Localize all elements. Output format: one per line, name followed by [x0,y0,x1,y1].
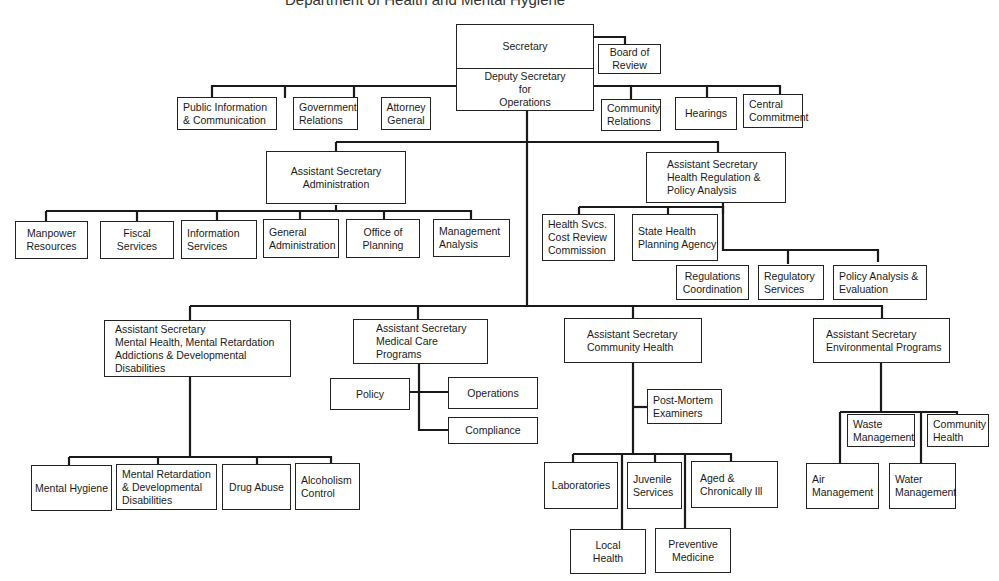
label: Management [812,486,873,499]
label: Policy [356,388,384,401]
hearings-box: Hearings [675,97,737,130]
label: Post-Mortem [653,394,713,407]
operations-box: Operations [448,377,538,409]
label: Drug Abuse [229,481,284,494]
label: Information [187,227,240,240]
label: Services [764,283,804,296]
label: Analysis [439,238,478,251]
label: Environmental Programs [826,341,942,354]
label: Cost Review [548,231,607,244]
mental-retardation-box: Mental Retardation & Developmental Disab… [116,464,217,510]
asst-sec-community-health-box: Assistant Secretary Community Health [564,318,702,363]
general-administration-box: General Administration [263,219,339,258]
label: Administration [303,178,370,191]
org-chart: Secretary Deputy Secretary for Operation… [0,0,999,581]
label: Mental Health, Mental Retardation [115,336,274,349]
post-mortem-examiners-box: Post-Mortem Examiners [647,389,722,424]
government-relations-box: Government Relations [293,97,358,130]
water-management-box: Water Management [889,463,956,509]
label: Management [895,486,956,499]
label: Public Information [183,101,267,114]
label: Commitment [749,111,809,124]
label: Office of [364,226,403,239]
label: Aged & [700,472,734,485]
fiscal-services-box: Fiscal Services [100,221,174,259]
label: Operations [499,96,550,109]
asst-sec-environmental-box: Assistant Secretary Environmental Progra… [813,318,950,363]
label: Fiscal [123,227,150,240]
label: Health Regulation & [667,171,760,184]
preventive-medicine-box: Preventive Medicine [655,528,731,573]
label: Government [299,101,357,114]
aged-chronically-ill-box: Aged & Chronically Ill [691,461,778,508]
label: Relations [299,114,343,127]
label: Local [595,539,620,552]
public-information-box: Public Information & Communication [177,97,277,130]
label: General [387,114,424,127]
label: Disabilities [122,494,172,507]
manpower-resources-box: Manpower Resources [15,221,88,259]
label: Management [439,225,500,238]
label: Water [895,473,923,486]
label: Community Health [587,341,673,354]
drug-abuse-box: Drug Abuse [222,464,291,510]
label: Policy Analysis & [839,270,918,283]
asst-sec-health-regulation-box: Assistant Secretary Health Regulation & … [646,152,786,203]
label: Central [749,98,783,111]
label: Deputy Secretary [484,70,565,83]
label: Juvenile [633,473,672,486]
label: Mental Hygiene [35,482,108,495]
label: Board of [610,46,650,59]
label: Secretary [503,40,548,53]
label: Review [612,59,646,72]
community-relations-box: Community Relations [601,99,661,131]
deputy-secretary-box: Deputy Secretary for Operations [456,68,594,111]
secretary-box: Secretary [456,24,594,69]
waste-management-box: Waste Management [847,414,915,447]
label: Hearings [685,107,727,120]
information-services-box: Information Services [181,220,257,259]
air-management-box: Air Management [806,463,879,509]
health-svcs-cost-review-box: Health Svcs. Cost Review Commission [542,214,615,261]
label: Examiners [653,407,703,420]
label: Assistant Secretary [376,322,466,335]
compliance-box: Compliance [448,417,538,444]
local-health-box: Local Health [570,529,646,574]
label: Chronically Ill [700,485,762,498]
regulatory-services-box: Regulatory Services [758,265,824,300]
label: State Health [638,225,696,238]
community-health-env-box: Community Health [927,414,989,447]
label: Coordination [683,283,743,296]
label: Addictions & Developmental [115,349,246,362]
label: Regulatory [764,270,815,283]
label: & Communication [183,114,266,127]
central-commitment-box: Central Commitment [743,94,803,128]
state-health-planning-box: State Health Planning Agency [632,214,718,261]
laboratories-box: Laboratories [544,462,618,509]
label: Policy Analysis [667,184,736,197]
asst-sec-mental-health-box: Assistant Secretary Mental Health, Menta… [104,320,291,377]
label: Health [593,552,623,565]
label: Assistant Secretary [587,328,677,341]
juvenile-services-box: Juvenile Services [627,462,682,509]
label: Community [933,418,986,431]
label: Operations [467,387,518,400]
label: for [519,83,531,96]
label: Management [853,431,914,444]
label: Programs [376,348,422,361]
office-of-planning-box: Office of Planning [346,219,420,258]
asst-sec-administration-box: Assistant Secretary Administration [266,151,406,204]
label: Medicine [672,551,714,564]
label: Assistant Secretary [826,328,916,341]
regulations-coordination-box: Regulations Coordination [676,265,749,300]
label: Resources [26,240,76,253]
label: Assistant Secretary [115,323,205,336]
label: & Developmental [122,481,202,494]
label: Disabilities [115,362,165,375]
label: Administration [269,239,336,252]
label: Assistant Secretary [667,158,757,171]
label: Waste [853,418,882,431]
label: Attorney [386,101,425,114]
policy-analysis-evaluation-box: Policy Analysis & Evaluation [833,265,927,300]
label: Community [607,102,660,115]
